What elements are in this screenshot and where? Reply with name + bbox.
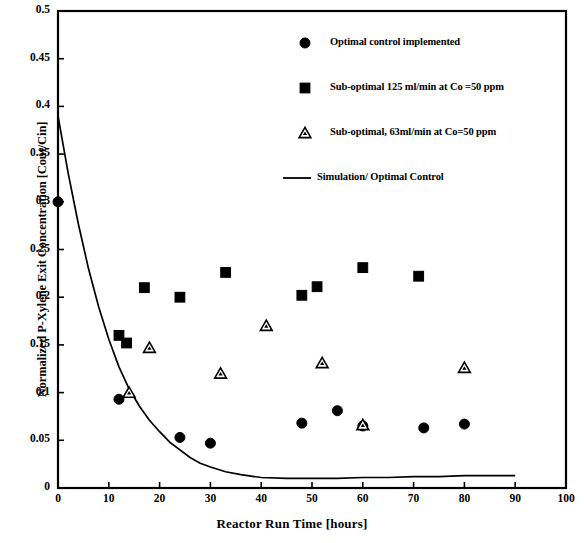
data-point-square bbox=[358, 263, 368, 273]
data-point-circle bbox=[175, 432, 185, 442]
data-point-square bbox=[175, 292, 185, 302]
data-point-square bbox=[297, 290, 307, 300]
legend-label: Sub-optimal 125 ml/min at Co =50 ppm bbox=[330, 81, 504, 92]
legend-label: Simulation/ Optimal Control bbox=[317, 171, 444, 182]
data-point-circle bbox=[205, 438, 215, 448]
data-point-circle bbox=[114, 394, 124, 404]
series-filled-circle bbox=[53, 197, 469, 448]
legend-label: Sub-optimal, 63ml/min at Co=50 ppm bbox=[330, 126, 496, 137]
data-point-circle bbox=[332, 406, 342, 416]
data-point-square bbox=[221, 267, 231, 277]
data-point-circle bbox=[297, 418, 307, 428]
series-filled-square bbox=[114, 263, 424, 348]
data-point-circle bbox=[53, 197, 63, 207]
data-point-circle bbox=[459, 419, 469, 429]
series-open-triangle bbox=[123, 320, 470, 429]
legend-label: Optimal control implemented bbox=[330, 36, 460, 47]
data-point-square bbox=[122, 338, 132, 348]
data-point-square bbox=[139, 283, 149, 293]
series-line-simulation bbox=[58, 116, 515, 479]
data-point-square bbox=[312, 282, 322, 292]
data-point-circle bbox=[419, 423, 429, 433]
data-point-square bbox=[414, 271, 424, 281]
chart-figure: Normalized P-Xylene Exit Concentration [… bbox=[0, 0, 584, 543]
